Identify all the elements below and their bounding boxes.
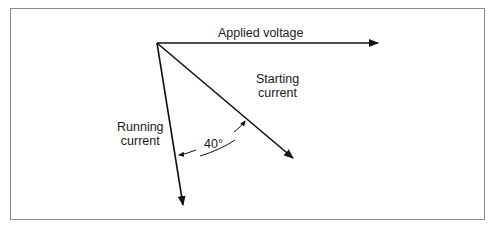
running-current-label-line1: Running	[117, 120, 164, 134]
applied-voltage-label: Applied voltage	[218, 26, 303, 40]
running-current-label-line2: current	[117, 134, 164, 148]
starting-current-vector	[157, 43, 293, 158]
running-current-label: Running current	[117, 120, 164, 148]
starting-current-label-line2: current	[256, 86, 299, 100]
starting-current-label-line1: Starting	[256, 72, 299, 86]
starting-current-label: Starting current	[256, 72, 299, 100]
angle-label: 40°	[204, 137, 223, 151]
